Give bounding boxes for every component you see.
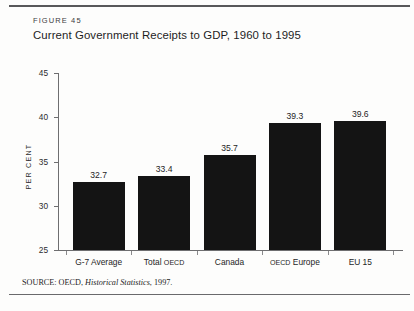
- source-note: SOURCE: OECD, Historical Statistics, 199…: [22, 278, 172, 287]
- bar: [204, 155, 256, 250]
- y-axis-line: [58, 73, 59, 251]
- x-axis-tick: [262, 251, 263, 255]
- x-axis-tick: [66, 251, 67, 255]
- bar-chart: PER CENT 2530354045 32.733.435.739.339.6…: [0, 0, 414, 311]
- bar: [269, 123, 321, 250]
- source-title: Historical Statistics: [85, 278, 150, 287]
- y-axis-tick: [54, 162, 58, 163]
- bar-value-label: 39.6: [330, 109, 390, 119]
- y-axis-tick: [54, 73, 58, 74]
- bar-value-label: 32.7: [69, 170, 129, 180]
- bar: [334, 121, 386, 250]
- x-axis-category-label: EU 15: [315, 257, 405, 267]
- y-axis-tick-label: 30: [8, 201, 48, 211]
- y-axis-tick-label: 45: [8, 68, 48, 78]
- bar-value-label: 33.4: [134, 164, 194, 174]
- y-axis-tick-label: 40: [8, 112, 48, 122]
- bar: [73, 182, 125, 250]
- x-axis-tick: [328, 251, 329, 255]
- x-axis-line: [58, 250, 403, 251]
- x-axis-tick: [393, 251, 394, 255]
- y-axis-tick-label: 35: [8, 157, 48, 167]
- bar-value-label: 39.3: [265, 111, 325, 121]
- source-prefix: SOURCE: OECD,: [22, 278, 85, 287]
- x-axis-tick: [131, 251, 132, 255]
- y-axis-tick: [54, 206, 58, 207]
- source-suffix: , 1997.: [150, 278, 173, 287]
- x-axis-tick: [197, 251, 198, 255]
- bar: [138, 176, 190, 250]
- y-axis-tick: [54, 250, 58, 251]
- y-axis-title: PER CENT: [24, 127, 33, 207]
- bottom-divider-rule: [9, 294, 410, 295]
- y-axis-tick: [54, 117, 58, 118]
- figure-page: FIGURE 45 Current Government Receipts to…: [0, 0, 414, 311]
- y-axis-tick-label: 25: [8, 245, 48, 255]
- bar-value-label: 35.7: [200, 143, 260, 153]
